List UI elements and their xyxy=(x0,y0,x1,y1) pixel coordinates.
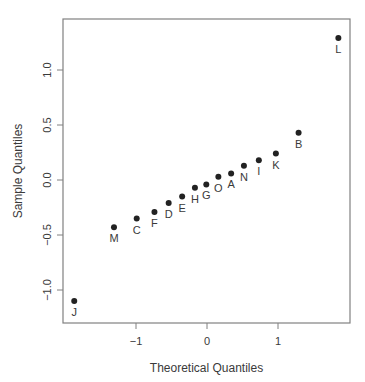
y-tick-label: 0.0 xyxy=(41,172,53,187)
point-marker xyxy=(215,174,221,180)
data-point: E xyxy=(178,194,185,214)
data-point: D xyxy=(165,200,173,220)
point-label: M xyxy=(109,232,118,244)
plot-frame xyxy=(63,19,350,323)
point-label: A xyxy=(227,178,235,190)
data-point: M xyxy=(109,224,118,244)
point-marker xyxy=(296,130,302,136)
data-point: O xyxy=(214,174,223,194)
point-marker xyxy=(134,216,140,222)
data-point: I xyxy=(256,157,262,177)
x-tick-label: 1 xyxy=(275,335,281,347)
data-point: H xyxy=(191,185,199,205)
y-tick-label: −0.5 xyxy=(41,224,53,246)
data-point: J xyxy=(71,298,77,318)
point-label: G xyxy=(202,189,211,201)
point-marker xyxy=(203,181,209,187)
y-tick-label: 0.5 xyxy=(41,117,53,132)
x-axis-title: Theoretical Quantiles xyxy=(150,361,263,375)
x-axis: −101 xyxy=(130,323,281,347)
data-point: C xyxy=(133,216,141,236)
point-label: B xyxy=(295,138,302,150)
point-marker xyxy=(166,200,172,206)
point-label: J xyxy=(71,306,77,318)
data-point: G xyxy=(202,181,211,201)
data-point: K xyxy=(272,151,280,171)
point-marker xyxy=(71,298,77,304)
x-tick-label: −1 xyxy=(130,335,143,347)
point-marker xyxy=(192,185,198,191)
point-label: E xyxy=(178,202,185,214)
point-label: O xyxy=(214,182,223,194)
data-point: F xyxy=(151,209,158,229)
point-label: I xyxy=(257,165,260,177)
point-marker xyxy=(273,151,279,157)
data-point: B xyxy=(295,130,302,150)
point-marker xyxy=(228,170,234,176)
point-marker xyxy=(179,194,185,200)
point-label: D xyxy=(165,208,173,220)
data-points: JMCFDEHGOANIKBL xyxy=(71,35,341,318)
point-label: F xyxy=(151,217,158,229)
point-marker xyxy=(241,163,247,169)
data-point: L xyxy=(335,35,341,55)
point-marker xyxy=(111,224,117,230)
qq-plot: −101 −1.0−0.50.00.51.0 JMCFDEHGOANIKBL T… xyxy=(0,0,365,382)
point-label: N xyxy=(240,171,248,183)
point-marker xyxy=(256,157,262,163)
x-tick-label: 0 xyxy=(204,335,210,347)
y-axis-title: Sample Quantiles xyxy=(11,124,25,219)
point-marker xyxy=(335,35,341,41)
y-tick-label: −1.0 xyxy=(41,279,53,301)
point-label: H xyxy=(191,193,199,205)
y-axis: −1.0−0.50.00.51.0 xyxy=(41,62,63,301)
point-marker xyxy=(151,209,157,215)
point-label: K xyxy=(272,159,280,171)
data-point: A xyxy=(227,170,235,190)
point-label: L xyxy=(335,43,341,55)
y-tick-label: 1.0 xyxy=(41,62,53,77)
data-point: N xyxy=(240,163,248,183)
point-label: C xyxy=(133,224,141,236)
